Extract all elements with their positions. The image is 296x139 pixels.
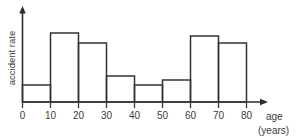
bar-30-40 <box>107 76 135 102</box>
y-axis-label: accident rate <box>6 31 17 85</box>
bar-40-50 <box>135 85 163 102</box>
x-tick-label-0: 0 <box>20 110 26 121</box>
bar-20-30 <box>79 43 107 102</box>
bar-50-60 <box>163 80 191 102</box>
histogram-chart: accident rate 0 10 20 30 40 50 60 <box>0 0 296 139</box>
bar-0-10 <box>23 85 51 102</box>
bar-60-70 <box>191 36 219 102</box>
x-tick-label-70: 70 <box>213 110 225 121</box>
x-axis-unit-label: (years) <box>258 125 289 136</box>
x-tick-label-80: 80 <box>241 110 253 121</box>
x-tick-label-40: 40 <box>129 110 141 121</box>
x-axis-arrow-icon <box>260 99 268 106</box>
x-tick-label-30: 30 <box>101 110 113 121</box>
x-tick-label-60: 60 <box>185 110 197 121</box>
x-axis-label: age <box>266 111 283 122</box>
x-tick-label-10: 10 <box>45 110 57 121</box>
x-tick-label-20: 20 <box>73 110 85 121</box>
chart-canvas: accident rate 0 10 20 30 40 50 60 <box>0 0 296 139</box>
bar-10-20 <box>51 33 79 102</box>
bar-70-80 <box>219 43 247 102</box>
y-axis-arrow-icon <box>19 6 26 14</box>
x-tick-label-50: 50 <box>157 110 169 121</box>
